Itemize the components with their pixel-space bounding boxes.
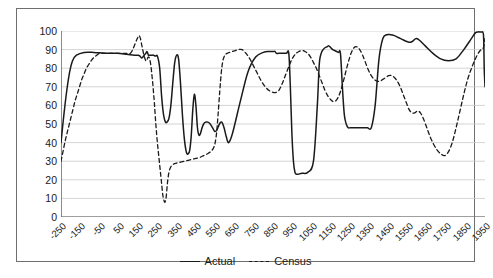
x-tick-label: 1250 (335, 221, 357, 243)
series-line-census (61, 36, 485, 203)
y-tick-label: 20 (27, 175, 57, 186)
y-tick-label: 40 (27, 137, 57, 148)
legend-line-icon (180, 261, 200, 262)
x-tick-label: 50 (111, 221, 125, 235)
x-tick-label: 1650 (412, 221, 434, 243)
legend-item-census[interactable]: Census (249, 255, 311, 267)
x-tick-label: 1550 (393, 221, 415, 243)
x-tick-label: 1050 (297, 221, 319, 243)
y-tick-label: 30 (27, 156, 57, 167)
y-axis-tick-labels: 1009080706050403020100 (23, 31, 57, 217)
x-tick-label: 1150 (316, 221, 337, 242)
y-tick-label: 10 (27, 193, 57, 204)
legend-label: Census (274, 255, 311, 267)
x-tick-label: 350 (165, 221, 183, 239)
chart-legend: ActualCensus (17, 255, 474, 267)
legend-label: Actual (205, 255, 236, 267)
y-tick-label: 80 (27, 63, 57, 74)
y-tick-label: 70 (27, 82, 57, 93)
chart-frame: 1009080706050403020100 -250-150-50501502… (16, 8, 475, 262)
x-tick-label: 450 (185, 221, 203, 239)
x-tick-label: 650 (223, 221, 241, 239)
x-tick-label: 250 (146, 221, 164, 239)
x-tick-label: 1850 (451, 221, 473, 243)
y-tick-label: 100 (27, 26, 57, 37)
legend-line-icon (249, 261, 269, 262)
x-tick-label: 1750 (432, 221, 454, 243)
x-tick-label: -50 (90, 221, 106, 237)
x-tick-label: 1950 (470, 221, 492, 243)
legend-item-actual[interactable]: Actual (180, 255, 236, 267)
x-tick-label: 1450 (374, 221, 396, 243)
plot-area (61, 31, 485, 217)
y-tick-label: 60 (27, 100, 57, 111)
y-tick-label: 0 (27, 212, 57, 223)
x-tick-label: 950 (281, 221, 299, 239)
x-tick-label: 1350 (354, 221, 376, 243)
x-tick-label: -150 (67, 221, 87, 241)
plot-svg (61, 31, 485, 217)
y-tick-label: 90 (27, 44, 57, 55)
y-tick-label: 50 (27, 119, 57, 130)
x-tick-label: -250 (48, 221, 68, 241)
x-tick-label: 850 (262, 221, 280, 239)
x-axis-tick-labels: -250-150-5050150250350450550650750850950… (61, 219, 485, 259)
x-tick-label: 150 (127, 221, 145, 239)
x-tick-label: 550 (204, 221, 222, 239)
x-tick-label: 750 (243, 221, 261, 239)
